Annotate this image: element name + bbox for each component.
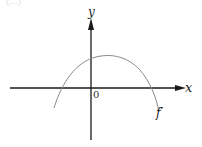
y-axis-label: y — [88, 6, 95, 18]
y-axis-arrow-icon — [88, 18, 94, 30]
origin-label: 0 — [93, 90, 99, 100]
curve-label: f′ — [156, 107, 163, 119]
x-axis-label: x — [185, 81, 192, 94]
cropped-corner-text: (…) — [6, 0, 21, 6]
curve-f-prime — [54, 56, 159, 112]
figure: (…) y x 0 f′ — [0, 0, 202, 147]
coordinate-plot — [0, 0, 202, 147]
